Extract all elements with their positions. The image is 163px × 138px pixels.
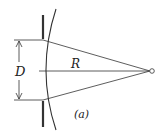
caption-label: (a) bbox=[74, 108, 89, 121]
diameter-label: D bbox=[14, 64, 26, 79]
wavefront-arc bbox=[46, 9, 56, 130]
radius-label: R bbox=[70, 57, 80, 71]
point-source-icon bbox=[150, 69, 155, 74]
aperture-diagram: D R (a) bbox=[0, 0, 163, 138]
ray-bottom bbox=[43, 71, 150, 100]
ray-top bbox=[43, 40, 150, 71]
